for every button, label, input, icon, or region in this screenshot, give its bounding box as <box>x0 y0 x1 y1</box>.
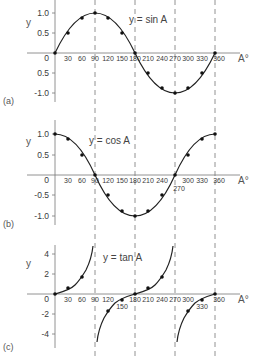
svg-text:270: 270 <box>169 296 181 303</box>
svg-text:120: 120 <box>102 55 114 62</box>
panel-c-label: (c) <box>3 342 14 352</box>
panel-b-title: y = cos A <box>89 135 130 146</box>
svg-text:90: 90 <box>91 55 99 62</box>
panel-a-title: y = sin A <box>129 14 167 25</box>
svg-text:240: 240 <box>156 55 168 62</box>
svg-text:2: 2 <box>44 269 49 279</box>
svg-text:0.5: 0.5 <box>37 28 49 38</box>
panel-a-label: (a) <box>3 96 14 106</box>
panel-b-xlabel: A° <box>238 175 249 186</box>
panel-a-sin: 1.0 0.5 0 0.5 -1.0 y 306090 120150180 21… <box>3 0 249 106</box>
panel-c-ylabel: y <box>26 258 31 269</box>
svg-text:210: 210 <box>142 177 154 184</box>
svg-text:60: 60 <box>78 177 86 184</box>
svg-text:360: 360 <box>213 55 225 62</box>
panel-a-ylabel: y <box>26 17 31 28</box>
svg-text:180: 180 <box>129 177 141 184</box>
svg-text:-4: -4 <box>41 329 49 339</box>
svg-text:60: 60 <box>78 55 86 62</box>
svg-text:330: 330 <box>196 303 208 310</box>
panel-b-ylabel: y <box>26 136 31 147</box>
svg-text:30: 30 <box>64 296 72 303</box>
svg-text:270: 270 <box>173 185 185 192</box>
svg-text:1.0: 1.0 <box>37 129 49 139</box>
svg-text:30: 30 <box>64 55 72 62</box>
svg-text:300: 300 <box>182 55 194 62</box>
panel-b-cos: 1.0 0.5 0 -0.5 -1.0 y 306090 120150180 2… <box>3 120 249 229</box>
panel-a-xlabel: A° <box>238 53 249 64</box>
svg-text:180: 180 <box>129 296 141 303</box>
svg-text:270: 270 <box>169 55 181 62</box>
svg-text:60: 60 <box>78 296 86 303</box>
svg-text:300: 300 <box>182 296 194 303</box>
panel-c-title: y = tan A <box>103 252 143 263</box>
svg-text:-2: -2 <box>41 309 49 319</box>
svg-text:300: 300 <box>182 177 194 184</box>
svg-text:4: 4 <box>44 249 49 259</box>
svg-text:90: 90 <box>91 296 99 303</box>
panel-c-tan: 4 2 0 -2 -4 y 306090 120150180 210240270… <box>3 245 249 352</box>
trig-graphs-figure: 1.0 0.5 0 0.5 -1.0 y 306090 120150180 21… <box>0 0 257 361</box>
svg-text:150: 150 <box>116 303 128 310</box>
svg-text:1.0: 1.0 <box>37 8 49 18</box>
svg-text:30: 30 <box>64 177 72 184</box>
svg-text:210: 210 <box>142 55 154 62</box>
svg-text:120: 120 <box>102 177 114 184</box>
svg-text:-1.0: -1.0 <box>34 211 49 221</box>
svg-text:360: 360 <box>213 177 225 184</box>
svg-text:240: 240 <box>156 296 168 303</box>
svg-text:360: 360 <box>213 296 225 303</box>
svg-text:150: 150 <box>116 177 128 184</box>
svg-text:330: 330 <box>196 177 208 184</box>
svg-text:-0.5: -0.5 <box>34 190 49 200</box>
svg-text:-1.0: -1.0 <box>34 88 49 98</box>
svg-text:210: 210 <box>142 296 154 303</box>
svg-text:150: 150 <box>116 55 128 62</box>
svg-text:240: 240 <box>156 177 168 184</box>
svg-text:0.5: 0.5 <box>37 68 49 78</box>
svg-text:330: 330 <box>196 55 208 62</box>
svg-text:0: 0 <box>44 175 49 185</box>
svg-text:120: 120 <box>102 296 114 303</box>
panel-b-label: (b) <box>3 219 14 229</box>
svg-text:0: 0 <box>44 294 49 304</box>
svg-text:0.5: 0.5 <box>37 150 49 160</box>
panel-c-xlabel: A° <box>238 294 249 305</box>
svg-text:0: 0 <box>44 53 49 63</box>
